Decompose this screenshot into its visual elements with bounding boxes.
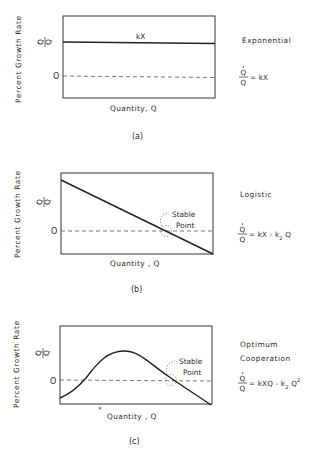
model-name: Optimum Cooperation xyxy=(240,340,291,363)
growth-rate-figure: Percent Growth Rate Q Q O kX Quantity, Q… xyxy=(0,0,318,451)
curve-label-kx: kX xyxy=(136,32,145,41)
y-symbol-qdot-over-q: Q Q xyxy=(36,37,53,47)
stable-point-leader xyxy=(160,213,169,226)
y-symbol-qdot-over-q: Q Q xyxy=(35,197,52,207)
y-symbol-denominator: Q xyxy=(44,39,53,45)
x-axis-label: Quantity , Q xyxy=(107,412,157,421)
annotation-stable: Stable xyxy=(172,210,196,219)
zero-tick-label: O xyxy=(53,72,59,81)
panel-caption: (b) xyxy=(131,285,142,294)
equation-rhs: = kX xyxy=(250,73,268,82)
model-equation: Q Q = kX xyxy=(239,66,268,87)
y-axis-label: Percent Growth Rate xyxy=(13,170,22,258)
panel-c: Percent Growth Rate Q Q O Stable Point *… xyxy=(12,320,301,446)
y-symbol-denominator: Q xyxy=(42,350,51,356)
equation-numerator: Q xyxy=(240,225,246,234)
model-name: Exponential xyxy=(242,36,291,45)
panel-b: Percent Growth Rate Q Q O Stable Point Q… xyxy=(13,170,291,294)
model-name-line-1: Optimum xyxy=(240,340,278,349)
zero-line xyxy=(63,76,215,78)
y-symbol-dot xyxy=(36,353,37,354)
annotation-point: Point xyxy=(183,368,201,377)
y-symbol-dot xyxy=(37,202,38,203)
y-axis-label: Percent Growth Rate xyxy=(14,15,23,103)
model-name: Logistic xyxy=(240,190,272,199)
y-axis-label: Percent Growth Rate xyxy=(12,320,21,408)
y-symbol-qdot-over-q: Q Q xyxy=(34,348,51,358)
equation-rhs: = kXQ - k2 Q2 xyxy=(249,377,301,390)
y-symbol-dot xyxy=(38,42,39,43)
x-axis-label: Quantity , Q xyxy=(110,259,160,268)
panel-caption: (c) xyxy=(129,437,140,446)
panel-caption: (a) xyxy=(132,132,143,141)
growth-curve-exponential xyxy=(63,42,215,44)
equation-denominator: Q xyxy=(240,235,246,244)
model-equation: Q Q = kX - k2 Q xyxy=(238,223,291,244)
zero-tick-label: O xyxy=(50,377,56,386)
x-axis-label: Quantity, Q xyxy=(110,104,157,113)
plot-frame xyxy=(63,16,215,98)
model-equation: Q Q = kXQ - k2 Q2 xyxy=(238,372,301,393)
stable-point-leader xyxy=(166,361,175,375)
equation-rhs: = kX - k2 Q xyxy=(249,230,291,241)
equation-numerator: Q xyxy=(240,374,246,383)
y-symbol-denominator: Q xyxy=(43,199,52,205)
equation-numerator: Q xyxy=(241,68,247,77)
zero-tick-label: O xyxy=(51,227,57,236)
annotation-stable: Stable xyxy=(179,357,203,366)
model-name-line-2: Cooperation xyxy=(240,354,291,363)
x-axis-marker: * xyxy=(98,405,102,414)
panel-a: Percent Growth Rate Q Q O kX Quantity, Q… xyxy=(14,15,291,141)
equation-denominator: Q xyxy=(240,384,246,393)
annotation-point: Point xyxy=(176,221,194,230)
equation-denominator: Q xyxy=(241,78,247,87)
